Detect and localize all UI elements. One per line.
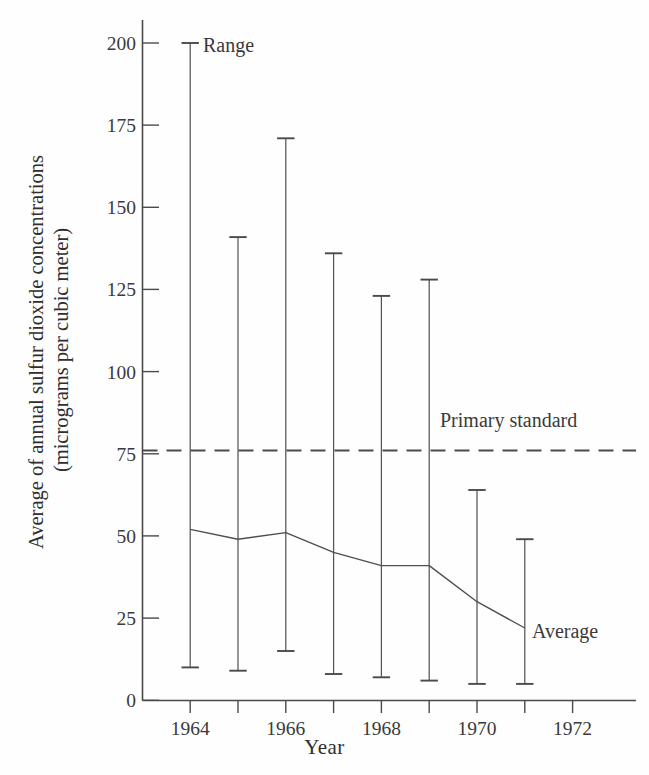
- y-tick-label-0: 0: [126, 690, 136, 711]
- y-tick-labels: 200 175 150 125 100 75 50 25 0: [107, 33, 136, 711]
- chart-plot-area: 200 175 150 125 100 75 50 25 0 1964 1966: [0, 0, 649, 775]
- y-tick-label-175: 175: [107, 115, 136, 136]
- average-series-line: [190, 529, 525, 628]
- y-tick-label-150: 150: [107, 197, 136, 218]
- range-annotation-group: Range: [203, 34, 254, 57]
- primary-standard-annotation-label: Primary standard: [440, 409, 577, 432]
- x-tick-marks: [190, 701, 572, 714]
- range-bars: [182, 43, 534, 684]
- y-tick-label-50: 50: [117, 526, 137, 547]
- y-tick-label-100: 100: [107, 362, 136, 383]
- x-axis-title: Year: [304, 735, 345, 759]
- chart-figure: 200 175 150 125 100 75 50 25 0 1964 1966: [0, 0, 649, 775]
- y-tick-label-200: 200: [107, 33, 136, 54]
- y-tick-label-125: 125: [107, 279, 136, 300]
- y-axis-title: Average of annual sulfur dioxide concent…: [0, 0, 62, 775]
- x-axis-title-wrap: Year: [0, 735, 649, 760]
- y-tick-label-25: 25: [117, 608, 137, 629]
- average-annotation-label: Average: [532, 620, 598, 643]
- range-annotation-label: Range: [203, 34, 254, 57]
- y-axis-title-line2: (micrograms per cubic meter): [47, 40, 75, 660]
- y-tick-marks: [143, 43, 160, 700]
- y-tick-label-75: 75: [117, 444, 137, 465]
